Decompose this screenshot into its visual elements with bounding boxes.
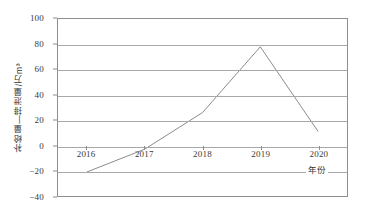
line-chart: 补给量—排泄量/万m³ 100806040200−20−40 201620172… — [0, 0, 366, 215]
y-axis-tick-marks — [0, 18, 57, 197]
x-axis-tick-label: 2019 — [251, 150, 270, 159]
x-axis-title: 年份 — [306, 166, 328, 175]
plot-area — [57, 18, 348, 197]
x-axis-tick-labels: 20162017201820192020 — [57, 150, 348, 166]
x-axis-tick-label: 2018 — [193, 150, 212, 159]
gridline — [58, 172, 347, 173]
gridline — [58, 121, 347, 122]
gridline — [58, 96, 347, 97]
x-axis-tick-label: 2017 — [135, 150, 154, 159]
x-axis-tick-label: 2016 — [77, 150, 96, 159]
x-axis-tick-label: 2020 — [309, 150, 328, 159]
gridline — [58, 70, 347, 71]
gridline — [58, 45, 347, 46]
